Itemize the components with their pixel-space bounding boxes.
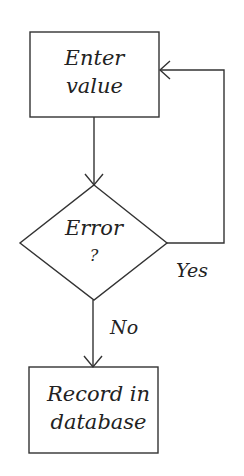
enter-value-line2: value [30,72,159,100]
record-database-label: Record in database [34,380,163,436]
enter-value-line1: Enter [30,44,159,72]
arrow-yes-feedback [160,70,224,243]
record-database-line1: Record in [34,380,163,408]
edge-label-no: No [110,318,138,337]
edge-label-yes: Yes [176,261,208,280]
error-decision-line1: Error [44,214,144,242]
enter-value-label: Enter value [30,44,159,100]
record-database-line2: database [34,408,163,436]
error-decision-label: Error ? [44,214,144,270]
error-decision-line2: ? [44,242,144,270]
